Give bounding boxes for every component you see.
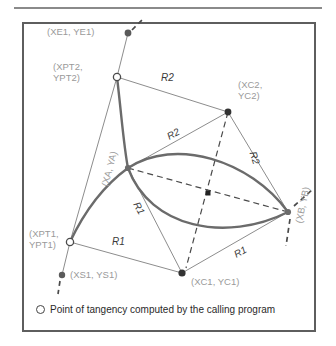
radius-label-r1-left: R1 xyxy=(112,236,125,247)
label-xpt1-ypt1: (XPT1, YPT1) xyxy=(29,229,59,250)
label-xs1-ys1: (XS1, YS1) xyxy=(70,270,117,281)
marker-xc2-yc2 xyxy=(225,109,232,116)
marker-xs1-ys1 xyxy=(59,272,65,278)
label-xc1-yc1: (XC1, YC1) xyxy=(191,277,239,288)
label-xe1-ye1: (XE1, YE1) xyxy=(47,27,94,38)
dashed-chord-xa-xb xyxy=(128,168,288,212)
marker-xpt1-ypt1 xyxy=(66,238,73,245)
marker-xa-ya xyxy=(125,165,131,171)
label-xc2-yc2: (XC2, YC2) xyxy=(238,80,262,101)
arc-r1-lower-left xyxy=(70,168,128,242)
marker-xpt2-ypt2 xyxy=(113,73,120,80)
arc-r1-lens-bottom xyxy=(128,168,288,228)
dashed-tangent-xe1 xyxy=(132,18,144,30)
radius-line-xc1-xb xyxy=(182,212,288,273)
marker-xb-yb xyxy=(285,209,291,215)
legend: Point of tangency computed by the callin… xyxy=(36,303,275,315)
dashed-tangent-xb-lower xyxy=(286,219,290,246)
radius-label-r2-top: R2 xyxy=(161,72,174,83)
geometry-diagram-canvas xyxy=(0,0,336,346)
legend-text: Point of tangency computed by the callin… xyxy=(50,304,275,315)
marker-xc1-yc1 xyxy=(178,269,185,276)
dashed-tangent-xs1 xyxy=(58,281,60,294)
line-xe1-xpt2 xyxy=(117,33,128,77)
label-xpt2-ypt2: (XPT2, YPT2) xyxy=(53,62,83,83)
marker-center-dot xyxy=(206,191,211,196)
marker-xe1-ye1 xyxy=(125,30,132,37)
line-xpt1-xs1 xyxy=(62,242,70,275)
dashed-center-line xyxy=(186,112,228,268)
open-circle-icon xyxy=(36,305,45,314)
